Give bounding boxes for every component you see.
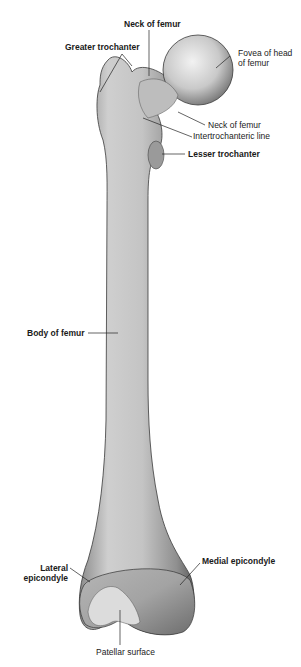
label-medial-epicondyle: Medial epicondyle [202,556,275,566]
label-neck-of-femur-top: Neck of femur [124,19,181,29]
label-lateral-line1: Lateral [20,563,68,573]
label-lesser-trochanter: Lesser trochanter [188,149,260,159]
label-fovea-line1: Fovea of head [238,48,292,58]
femur-body-shape [79,57,194,635]
label-greater-trochanter: Greater trochanter [65,42,140,52]
label-patellar-surface: Patellar surface [96,647,155,657]
leader-neck-side [178,112,205,125]
label-fovea-line2: of femur [238,58,269,68]
lesser-trochanter-shape [148,141,164,169]
label-neck-of-femur-side: Neck of femur [208,120,261,130]
label-lateral-line2: epicondyle [10,573,68,583]
label-intertrochanteric-line: Intertrochanteric line [193,131,270,141]
label-body-of-femur: Body of femur [27,328,85,338]
